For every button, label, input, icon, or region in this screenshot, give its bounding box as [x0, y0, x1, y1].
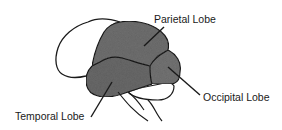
- occipital-lobe-label: Occipital Lobe: [203, 92, 270, 103]
- parietal-lobe-label: Parietal Lobe: [154, 14, 216, 25]
- temporal-lobe-label: Temporal Lobe: [15, 111, 84, 122]
- brainstem-line-back: [148, 100, 162, 121]
- brain-diagram: Parietal Lobe Occipital Lobe Temporal Lo…: [0, 0, 282, 130]
